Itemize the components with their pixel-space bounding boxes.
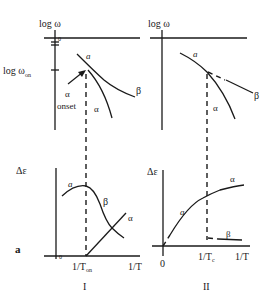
origin-label: 0	[59, 254, 62, 260]
origin-label: 0	[58, 36, 61, 42]
curve-a-beta	[62, 186, 124, 238]
curve-label-a: a	[180, 207, 185, 217]
x-axis-label: 1/T	[235, 251, 249, 262]
diagram-canvas: 0 log ω log ωon a β α α onset log ω a β …	[0, 0, 274, 297]
column-label-II: II	[203, 281, 210, 292]
column-I-bottom-plot: 0 Δε a β α 1/Ton 1/T a I	[15, 165, 142, 292]
curve-beta	[218, 239, 242, 240]
onset-label-alpha: α	[65, 89, 70, 99]
column-I-top-plot: 0 log ω log ωon a β α α onset	[3, 18, 141, 256]
curve-label-beta: β	[254, 90, 259, 101]
curve-beta-dashed	[208, 238, 218, 239]
panel-letter: a	[15, 243, 21, 255]
relaxation-diagram: 0 log ω log ωon a β α α onset log ω a β …	[0, 0, 274, 297]
column-II-top-plot: log ω a β α	[148, 18, 259, 240]
curve-label-a: a	[86, 51, 91, 61]
curve-label-a: a	[193, 49, 198, 59]
curve-label-beta: β	[103, 196, 108, 207]
y-axis-label: log ω	[39, 18, 61, 29]
curve-label-alpha: α	[94, 104, 99, 114]
x-axis-label: 1/T	[128, 261, 142, 272]
origin-label: 0	[160, 258, 165, 269]
y-axis-label: log ω	[148, 18, 170, 29]
x-tick-label: 1/Ton	[72, 261, 92, 273]
curve-label-alpha: α	[128, 213, 133, 223]
curve-beta	[226, 80, 253, 93]
onset-arrow-head	[78, 70, 86, 77]
curve-label-beta: β	[226, 229, 231, 239]
curve-label-alpha: α	[230, 174, 235, 184]
y-tick-label: log ωon	[3, 65, 31, 78]
curve-label-alpha: α	[213, 103, 218, 113]
onset-label: onset	[57, 101, 76, 111]
column-II-bottom-plot: Δε a α β 0 1/Tc 1/T II	[147, 166, 250, 292]
curve-label-a: a	[68, 179, 73, 189]
curve-label-beta: β	[136, 85, 141, 96]
curve-a-dashed-start	[163, 235, 170, 246]
y-axis-label: Δε	[16, 165, 27, 176]
x-tick-label: 1/Tc	[198, 251, 215, 263]
column-label-I: I	[83, 281, 86, 292]
y-axis-label: Δε	[147, 166, 158, 177]
